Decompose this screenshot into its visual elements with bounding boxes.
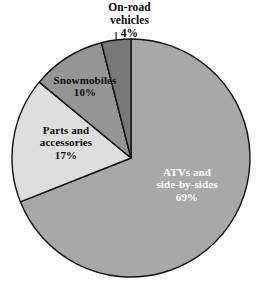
slice-value-parts-and-accessories: 17% — [14, 149, 118, 161]
slice-value-atvs-and-side-by-sides: 69% — [133, 191, 241, 203]
slice-label-atvs-and-side-by-sides: ATVs and side-by-sides 69% — [133, 166, 241, 203]
slice-value-snowmobiles: 10% — [36, 86, 134, 98]
slice-label-snowmobiles: Snowmobiles 10% — [36, 74, 134, 99]
slice-label-on-road-vehicles-line1: On-road — [0, 1, 259, 14]
slice-label-atvs-and-side-by-sides-line2: side-by-sides — [133, 178, 241, 190]
slice-label-parts-and-accessories-line2: accessories — [14, 136, 118, 148]
slice-label-atvs-and-side-by-sides-line1: ATVs and — [133, 166, 241, 178]
slice-label-parts-and-accessories-line1: Parts and — [14, 124, 118, 136]
pie-chart: On-road vehicles 4% Snowmobiles 10% Part… — [0, 0, 259, 302]
slice-label-on-road-vehicles: On-road vehicles 4% — [0, 1, 259, 40]
slice-value-on-road-vehicles: 4% — [0, 27, 259, 40]
slice-label-on-road-vehicles-line2: vehicles — [0, 14, 259, 27]
slice-label-snowmobiles-line1: Snowmobiles — [36, 74, 134, 86]
slice-label-parts-and-accessories: Parts and accessories 17% — [14, 124, 118, 161]
